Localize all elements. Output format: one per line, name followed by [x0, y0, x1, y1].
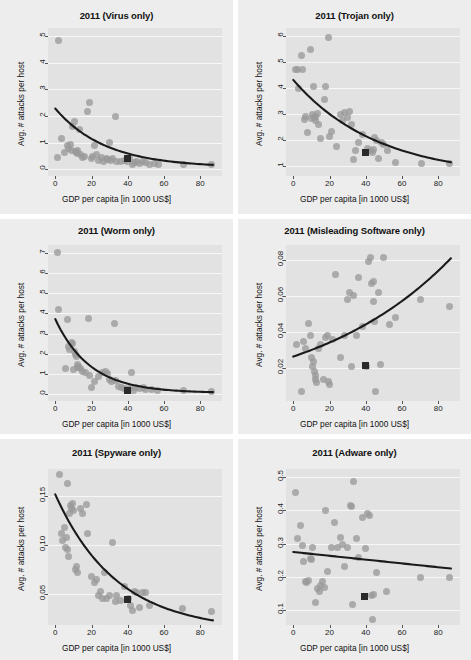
- x-tick-mark: [330, 625, 331, 628]
- x-tick-label: 40: [361, 179, 370, 188]
- y-tick-mark: [45, 169, 48, 170]
- x-tick-mark: [438, 625, 439, 628]
- y-axis-label: Avg. # attacks per host: [254, 507, 264, 591]
- x-tick-mark: [92, 625, 93, 628]
- plot-area: [286, 469, 460, 625]
- y-tick-label: 4: [276, 71, 285, 101]
- y-axis-label: Avg. # attacks per host: [16, 507, 26, 591]
- x-tick-mark: [128, 625, 129, 628]
- fit-curve: [286, 245, 460, 401]
- y-tick-mark: [283, 114, 286, 115]
- plot-area: [48, 469, 222, 625]
- fit-curve: [48, 245, 222, 401]
- facet-panel: 2011 (Trojan only)123456020406080Avg. # …: [235, 0, 471, 214]
- facet-panel: 2011 (Misleading Software only)0.020.040…: [235, 214, 471, 434]
- x-tick-mark: [200, 625, 201, 628]
- y-tick-mark: [283, 36, 286, 37]
- y-tick-mark: [45, 394, 48, 395]
- x-tick-mark: [164, 401, 165, 404]
- x-tick-label: 80: [434, 628, 443, 637]
- x-tick-mark: [293, 401, 294, 404]
- x-tick-mark: [293, 625, 294, 628]
- x-tick-label: 80: [196, 179, 205, 188]
- y-tick-mark: [283, 544, 286, 545]
- x-tick-mark: [200, 401, 201, 404]
- y-tick-label: 0.05: [38, 577, 47, 607]
- y-tick-label: 4: [38, 46, 47, 76]
- y-tick-mark: [45, 545, 48, 546]
- y-tick-mark: [283, 140, 286, 141]
- x-tick-mark: [92, 401, 93, 404]
- x-tick-label: 60: [160, 179, 169, 188]
- fit-curve: [48, 469, 222, 625]
- facet-panel: 2011 (Worm only)01234567020406080Avg. # …: [0, 214, 235, 434]
- y-tick-label: 2: [38, 100, 47, 130]
- panel-title: 2011 (Trojan only): [238, 10, 471, 21]
- panel-title: 2011 (Adware only): [238, 447, 471, 458]
- facet-grid: 2011 (Virus only)012345020406080Avg. # a…: [0, 0, 471, 660]
- x-tick-mark: [92, 176, 93, 179]
- facet-panel: 2011 (Virus only)012345020406080Avg. # a…: [0, 0, 235, 214]
- y-tick-label: 0.10: [38, 529, 47, 559]
- y-tick-mark: [283, 510, 286, 511]
- panel-title: 2011 (Spyware only): [0, 447, 233, 458]
- y-tick-mark: [283, 62, 286, 63]
- y-tick-mark: [45, 89, 48, 90]
- y-tick-mark: [45, 374, 48, 375]
- x-tick-mark: [366, 401, 367, 404]
- x-tick-mark: [293, 176, 294, 179]
- y-tick-mark: [283, 296, 286, 297]
- x-tick-mark: [366, 625, 367, 628]
- x-tick-label: 40: [123, 179, 132, 188]
- x-tick-mark: [438, 401, 439, 404]
- facet-panel: 2011 (Adware only)0.10.20.30.40.50204060…: [235, 434, 471, 660]
- x-tick-label: 40: [123, 404, 132, 413]
- x-tick-label: 0: [53, 628, 57, 637]
- x-axis-label: GDP per capita [in 1000 US$]: [0, 643, 233, 653]
- x-tick-label: 80: [196, 628, 205, 637]
- y-tick-label: 6: [276, 19, 285, 49]
- y-tick-label: 7: [38, 237, 47, 267]
- x-axis-label: GDP per capita [in 1000 US$]: [238, 419, 471, 429]
- y-tick-mark: [45, 116, 48, 117]
- plot-area: [48, 245, 222, 401]
- y-tick-label: 0.3: [276, 527, 285, 557]
- x-tick-label: 0: [291, 179, 295, 188]
- x-tick-mark: [55, 625, 56, 628]
- y-tick-label: 0.15: [38, 480, 47, 510]
- y-tick-mark: [45, 354, 48, 355]
- x-tick-label: 20: [325, 628, 334, 637]
- x-tick-label: 60: [398, 179, 407, 188]
- y-tick-mark: [283, 260, 286, 261]
- x-tick-label: 20: [87, 628, 96, 637]
- y-tick-label: 0.5: [276, 461, 285, 491]
- panel-title: 2011 (Virus only): [0, 10, 233, 21]
- x-tick-label: 60: [160, 404, 169, 413]
- y-tick-label: 1: [276, 149, 285, 179]
- x-tick-mark: [402, 401, 403, 404]
- y-tick-mark: [45, 313, 48, 314]
- x-tick-mark: [330, 401, 331, 404]
- y-tick-label: 0.2: [276, 560, 285, 590]
- panel-title: 2011 (Misleading Software only): [238, 225, 471, 236]
- y-tick-mark: [45, 253, 48, 254]
- x-tick-mark: [402, 625, 403, 628]
- y-tick-label: 0.08: [276, 243, 285, 273]
- y-tick-mark: [283, 332, 286, 333]
- y-tick-label: 0.1: [276, 594, 285, 624]
- x-axis-label: GDP per capita [in 1000 US$]: [0, 419, 233, 429]
- x-axis-label: GDP per capita [in 1000 US$]: [238, 194, 471, 204]
- y-tick-label: 0.04: [276, 316, 285, 346]
- y-tick-label: 0.4: [276, 494, 285, 524]
- y-tick-label: 0.06: [276, 279, 285, 309]
- panel-title: 2011 (Worm only): [0, 225, 233, 236]
- x-tick-label: 20: [87, 179, 96, 188]
- x-tick-mark: [164, 625, 165, 628]
- x-tick-label: 20: [325, 404, 334, 413]
- x-tick-label: 0: [291, 628, 295, 637]
- fit-curve: [48, 28, 222, 176]
- x-axis-label: GDP per capita [in 1000 US$]: [238, 643, 471, 653]
- y-tick-mark: [283, 577, 286, 578]
- x-tick-label: 0: [53, 404, 57, 413]
- y-tick-label: 0.02: [276, 352, 285, 382]
